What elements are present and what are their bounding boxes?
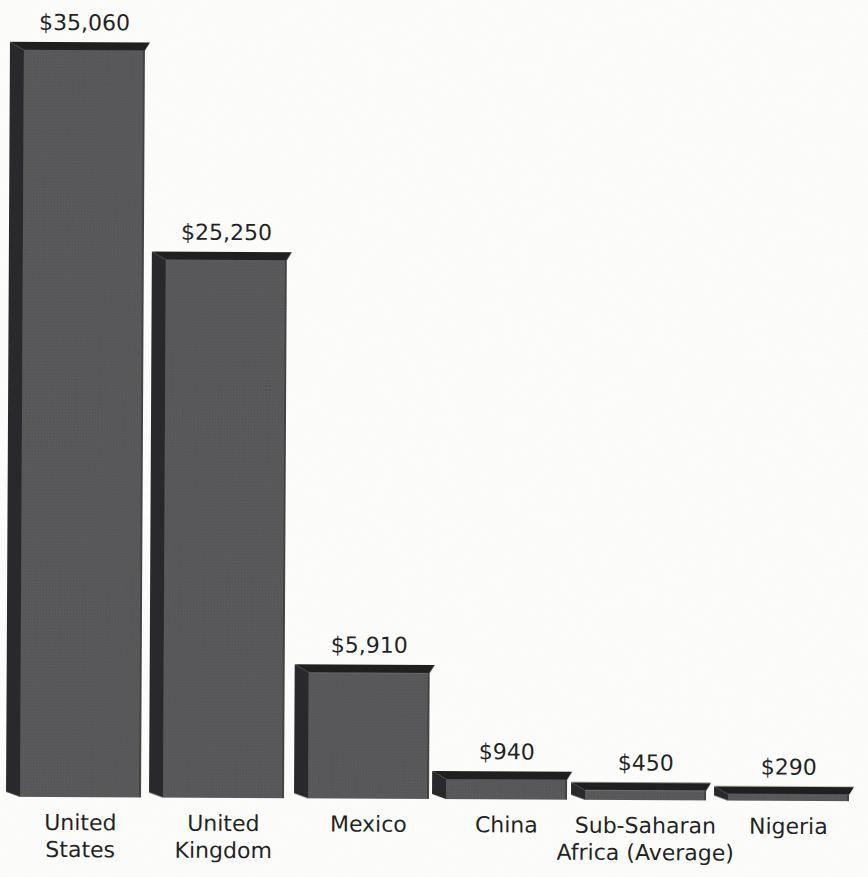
paper-grain-overlay [0, 0, 868, 877]
bar-chart: $35,060UnitedStates$25,250UnitedKingdom$… [0, 0, 868, 877]
scanned-chart-page: $35,060UnitedStates$25,250UnitedKingdom$… [0, 0, 868, 877]
